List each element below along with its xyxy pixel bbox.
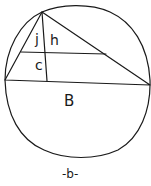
horizontal-chord (21, 52, 106, 54)
figure-caption: -b- (62, 167, 78, 181)
label-j: j (34, 31, 39, 47)
geometry-figure: j h c B -b- (0, 0, 151, 186)
label-h: h (50, 32, 59, 48)
label-c: c (35, 57, 43, 73)
label-B: B (64, 92, 74, 110)
circle (5, 6, 150, 158)
altitude-line (42, 12, 47, 81)
